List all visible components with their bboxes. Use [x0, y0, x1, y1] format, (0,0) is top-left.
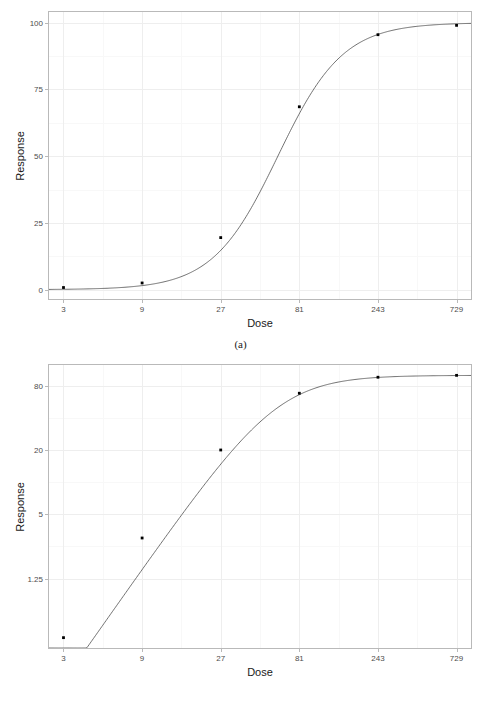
data-point [298, 392, 301, 395]
x-tick-label: 243 [371, 305, 384, 314]
panel-rect-b [48, 364, 472, 649]
x-tick-label: 81 [295, 654, 304, 663]
chart-panel-b: 1.2552080392781243729DoseResponse (b) [0, 352, 481, 703]
y-tick-label: 1.25 [14, 574, 43, 583]
data-point [219, 449, 222, 452]
x-tick-label: 81 [295, 305, 304, 314]
x-tick-mark [378, 300, 379, 303]
data-point [377, 376, 380, 379]
y-tick-mark [45, 89, 48, 90]
x-tick-label: 729 [450, 305, 463, 314]
x-tick-mark [299, 649, 300, 652]
response-curve [49, 23, 471, 289]
y-tick-mark [45, 450, 48, 451]
x-tick-label: 243 [371, 654, 384, 663]
x-tick-mark [299, 300, 300, 303]
y-tick-label: 75 [14, 85, 43, 94]
y-axis-title: Response [14, 131, 26, 181]
y-tick-label: 100 [14, 18, 43, 27]
data-point [377, 33, 380, 36]
data-layer [49, 12, 471, 299]
x-tick-label: 729 [450, 654, 463, 663]
y-axis-title: Response [14, 482, 26, 532]
y-tick-mark [45, 514, 48, 515]
y-tick-mark [45, 23, 48, 24]
x-axis-title: Dose [247, 317, 273, 329]
x-tick-label: 27 [216, 654, 225, 663]
y-tick-mark [45, 386, 48, 387]
x-tick-mark [457, 300, 458, 303]
x-tick-label: 3 [61, 654, 65, 663]
x-tick-mark [221, 300, 222, 303]
data-point [62, 286, 65, 289]
x-tick-label: 9 [140, 305, 144, 314]
chart-panel-a: 0255075100392781243729DoseResponse (a) [0, 0, 481, 355]
x-tick-label: 9 [140, 654, 144, 663]
x-tick-mark [457, 649, 458, 652]
panel-rect-a [48, 11, 472, 300]
data-point [455, 374, 458, 377]
response-curve [49, 375, 471, 648]
x-tick-mark [63, 649, 64, 652]
data-point [298, 105, 301, 108]
data-point [455, 24, 458, 27]
data-point [141, 537, 144, 540]
x-tick-label: 3 [61, 305, 65, 314]
y-tick-label: 25 [14, 218, 43, 227]
y-tick-label: 0 [14, 285, 43, 294]
x-axis-title: Dose [247, 666, 273, 678]
subfigure-caption-a: (a) [0, 338, 481, 350]
y-tick-mark [45, 223, 48, 224]
x-tick-mark [142, 649, 143, 652]
x-tick-label: 27 [216, 305, 225, 314]
x-tick-mark [142, 300, 143, 303]
x-tick-mark [378, 649, 379, 652]
y-tick-mark [45, 290, 48, 291]
y-tick-label: 20 [14, 446, 43, 455]
x-tick-mark [221, 649, 222, 652]
y-tick-mark [45, 579, 48, 580]
dose-response-figure: 0255075100392781243729DoseResponse (a) 1… [0, 0, 481, 703]
y-tick-label: 80 [14, 381, 43, 390]
data-point [219, 236, 222, 239]
y-tick-mark [45, 156, 48, 157]
data-point [141, 282, 144, 285]
x-tick-mark [63, 300, 64, 303]
data-point [62, 636, 65, 639]
data-layer [49, 365, 471, 648]
